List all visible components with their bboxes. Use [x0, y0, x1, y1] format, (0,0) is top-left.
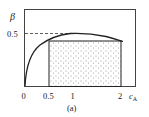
y-axis-symbol: β	[9, 11, 15, 22]
beta-vs-cA-diagram: β 0.5 0 0.5 1 2 cA (a)	[0, 0, 149, 117]
figure-label: (a)	[67, 103, 77, 113]
x-tick-2: 2	[118, 91, 122, 101]
x-tick-0.5: 0.5	[43, 91, 54, 101]
shaded-region	[49, 41, 121, 87]
x-tick-1: 1	[71, 91, 75, 101]
x-axis-symbol: cA	[129, 91, 138, 102]
x-axis-subscript: A	[133, 96, 138, 102]
x-tick-0: 0	[22, 91, 26, 101]
y-tick-label: 0.5	[7, 29, 18, 39]
